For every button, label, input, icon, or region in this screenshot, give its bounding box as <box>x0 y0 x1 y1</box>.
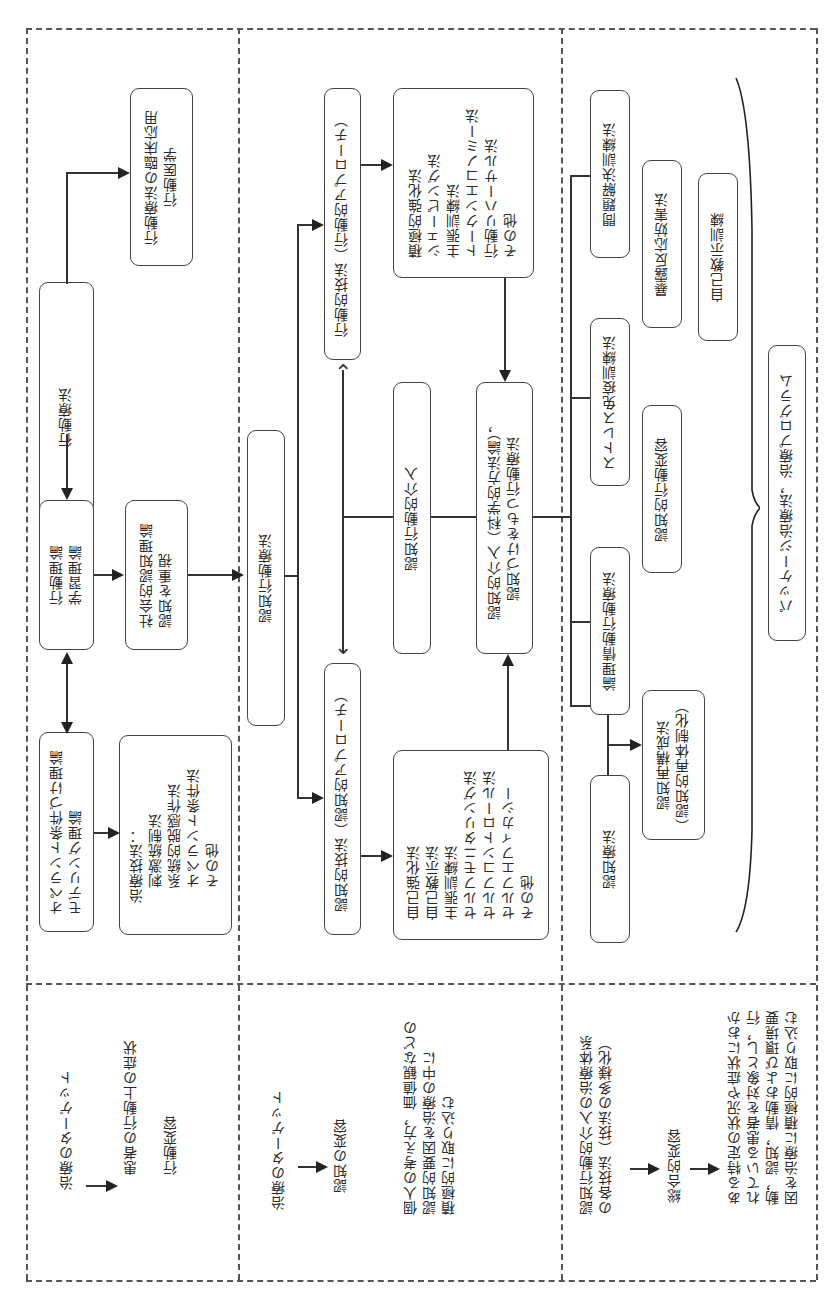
box-label: 暴露反応妨害法 <box>653 192 672 297</box>
connector-to-rebt <box>570 621 590 623</box>
note-arrow-line-2 <box>690 1168 710 1170</box>
grid-top-border <box>26 28 816 30</box>
connector-behavior-to-clinical-v <box>66 172 68 284</box>
arrow-to-cognitive-list <box>381 850 393 862</box>
connector-behavioral-list-down <box>504 278 506 370</box>
arrow-bidir-up <box>61 652 73 664</box>
arrow-bidir-down <box>61 722 73 734</box>
connector-cbt-spine <box>297 224 299 798</box>
box-label: 認知行動療法 <box>257 533 276 623</box>
box-label: オペラント条件づけ理論 モデリング理論 <box>48 750 86 915</box>
connector-to-cognitive-therapy <box>570 705 590 707</box>
box-label: パッケージ治療法，治療プログラム <box>778 373 797 613</box>
note-change: 行動変容 <box>162 1115 181 1175</box>
arrow-to-cbt <box>232 569 244 581</box>
arrow-to-behavioral-list <box>381 159 393 171</box>
connector-learning-to-social <box>94 574 114 576</box>
note-arrow-icon-2 <box>708 1163 720 1175</box>
arrow-to-cognitive-intervention-top <box>499 370 511 382</box>
box-cbt: 認知行動療法 <box>247 430 285 726</box>
box-operant-theory: オペラント条件づけ理論 モデリング理論 <box>39 732 94 932</box>
arrow-to-cognitive-intervention-bottom <box>502 654 514 666</box>
arrow-to-learning <box>61 488 73 500</box>
connector-learning-to-operant <box>66 660 68 722</box>
open-arrow-up-icon: ⌃ <box>334 362 352 384</box>
box-stress-inoculation: ストレス免疫訓練法 <box>590 318 630 486</box>
box-label: 自己強化法 自己教示法 主張訓練法 セルフモニタリング法 セルフコントロール法 … <box>405 770 538 920</box>
connector-bidirectional-vertical <box>342 370 344 652</box>
grid-divider-horizontal <box>26 983 816 985</box>
note-arrow-line <box>86 1185 108 1187</box>
connector-cog-int-to-integrated <box>533 516 572 518</box>
box-label: 自己教示訓練 <box>709 212 728 302</box>
arrow-to-behavioral-technique <box>312 219 324 231</box>
connector-cognitive-to-list <box>361 855 381 857</box>
box-label: 行動療法の臨床応用 行動医学 <box>143 110 181 245</box>
box-cognitive-therapy: 認知療法 <box>590 775 630 943</box>
connector-spine-to-behavioral <box>297 224 313 226</box>
connector-spine-to-cognitive <box>297 797 313 799</box>
connector-cbt-int-to-cog-int <box>431 516 476 518</box>
note-target-label: 治療のターゲット <box>58 1070 77 1190</box>
grid-bottom-border <box>26 1280 816 1282</box>
note-integrated: 認知行動的介入の治療体系 の各技法（技法の多様化） 総合的変容 ある特定の状況や… <box>578 1010 808 1255</box>
note-cognitive: 治療のターゲット 認知の変容 個人の考え方，価値観などの 認知的要因を治療の中に… <box>270 1020 480 1250</box>
box-package: パッケージ治療法，治療プログラム <box>768 345 806 641</box>
connector-integrated-spine <box>570 175 572 705</box>
box-social-cognitive: 社会的認知理論 認知を重視 <box>125 500 188 650</box>
note-arrow-icon <box>316 1161 328 1173</box>
connector-to-restructuring <box>607 744 631 746</box>
note-behavior: 治療のターゲット 患者の行動上の症状 行動変容 <box>58 1040 188 1240</box>
box-label: 認知的技法（認知的アプローチ） <box>333 687 352 912</box>
connector-social-to-cbt <box>188 574 232 576</box>
note-description: 個人の考え方，価値観などの 認知的要因を治療の中に 積極的に取り込む <box>402 1020 459 1215</box>
note-line1: 認知行動的介入の治療体系 の各技法（技法の多様化） <box>578 1035 616 1215</box>
note-target-value: 認知の変容 <box>332 1118 351 1193</box>
note-arrow-line-1 <box>630 1168 650 1170</box>
connector-cbt-to-spine <box>285 575 297 577</box>
grid-left-border <box>26 28 28 1280</box>
box-cognitive-intervention: 認知的介入（科学的方法論）， 認知づけをもつ行動療法 <box>476 382 533 654</box>
box-label: 認知療法 <box>601 829 620 889</box>
box-cbt-intervention: 認知行動的介入 <box>393 382 431 654</box>
box-treatment-techniques: 治療技法： 刺激統制法 系統的脱感作法 オペラント条件法 その他 <box>119 735 232 935</box>
box-cognitive-list: 自己強化法 自己教示法 主張訓練法 セルフモニタリング法 セルフコントロール法 … <box>393 750 549 940</box>
note-arrow-line <box>298 1166 318 1168</box>
box-behavioral-list: 積極的強化法 シェーピング法 主張訓練法 トークンエコノミー法 行動リハーサル法… <box>393 88 534 278</box>
connector-to-problem-solving <box>570 175 590 177</box>
box-label: 治療技法： 刺激統制法 系統的脱感作法 オペラント条件法 その他 <box>128 768 223 903</box>
package-brace <box>730 70 760 940</box>
connector-to-stress <box>570 397 590 399</box>
grid-divider-2 <box>561 28 563 1280</box>
grid-divider-1 <box>238 28 240 1280</box>
arrow-to-techniques <box>108 827 120 839</box>
connector-behavior-to-learning <box>66 434 68 488</box>
box-label: 論理情動行動療法 <box>601 571 620 691</box>
connector-behavioral-to-list <box>361 164 381 166</box>
box-label: 行動理論 学習理論 <box>48 545 86 605</box>
arrow-to-social <box>112 569 124 581</box>
grid-right-border <box>816 28 818 1280</box>
note-arrow-icon-1 <box>648 1163 660 1175</box>
box-restructuring: 認知再構成法 （認知的再体制化） <box>642 690 705 840</box>
note-arrow-icon <box>106 1180 118 1192</box>
box-clinical-application: 行動療法の臨床応用 行動医学 <box>130 88 193 266</box>
box-label: 問題解決訓練法 <box>601 122 620 227</box>
box-label: 認知行動的介入 <box>403 466 422 571</box>
open-arrow-down-icon: ⌄ <box>334 636 352 658</box>
box-cognitive-behavior-change: 認知的行動変容 <box>642 405 682 573</box>
note-target-value: 患者の行動上の症状 <box>122 1040 141 1175</box>
note-line2: 総合的変容 <box>666 1128 685 1203</box>
box-label: ストレス免疫訓練法 <box>601 335 620 470</box>
box-learning-theory: 行動理論 学習理論 <box>39 500 94 650</box>
arrow-to-clinical <box>118 167 130 179</box>
box-label: 認知再構成法 （認知的再体制化） <box>655 698 693 833</box>
box-problem-solving: 問題解決訓練法 <box>590 90 630 258</box>
connector-behavior-to-clinical-h <box>66 172 120 174</box>
box-label: 行動的技法（行動的アプローチ） <box>333 112 352 337</box>
arrow-to-cognitive-technique <box>312 792 324 804</box>
note-line3: ある特定の状況や症状におか れている患者を対象とし，行 動，認知，情動および環境… <box>726 1010 802 1205</box>
box-label: 社会的認知理論 認知を重視 <box>138 523 176 628</box>
box-label: 認知的介入（科学的方法論）， 認知づけをもつ行動療法 <box>486 417 524 620</box>
box-cognitive-technique: 認知的技法（認知的アプローチ） <box>324 663 361 935</box>
